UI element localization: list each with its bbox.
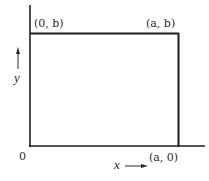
label-top-right: (a, b) <box>146 18 175 29</box>
label-origin: 0 <box>19 151 26 162</box>
label-top-left: (0, b) <box>34 18 64 29</box>
rectangle-diagram: (0, b) (a, b) 0 (a, 0) y x <box>0 0 209 181</box>
y-arrow-icon <box>16 47 20 69</box>
x-axis-label: x <box>114 158 120 171</box>
x-arrow-icon <box>125 164 148 168</box>
y-axis-label: y <box>14 71 20 84</box>
label-bottom-right: (a, 0) <box>149 152 178 163</box>
